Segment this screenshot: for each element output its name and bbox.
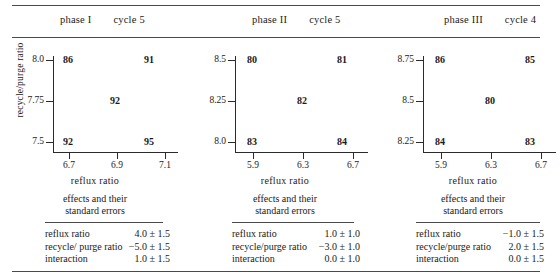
- data-value: 83: [247, 136, 257, 147]
- effect-value: 4.0 ± 1.5: [135, 228, 171, 241]
- y-axis-line: [235, 56, 236, 152]
- x-tick-label: 6.7: [63, 160, 75, 170]
- x-tick-mark: [117, 152, 118, 159]
- x-axis-line: [53, 152, 178, 153]
- effect-name: interaction: [232, 253, 275, 266]
- x-tick-label: 5.9: [247, 160, 259, 170]
- effects-row: recycle/purge ratio 2.0 ± 1.5: [416, 241, 544, 254]
- effect-value: −3.0 ± 1.0: [319, 241, 360, 254]
- effects-table-rule: [45, 222, 163, 223]
- effects-caption: effects and their standard errors: [378, 193, 560, 217]
- y-tick-mark: [416, 60, 424, 61]
- header-rule: [12, 37, 540, 38]
- x-tick-label: 5.9: [435, 160, 447, 170]
- effects-caption: effects and their standard errors: [0, 193, 190, 217]
- y-tick-mark: [228, 142, 236, 143]
- data-value: 92: [63, 136, 73, 147]
- x-tick-label: 6.9: [111, 160, 123, 170]
- panel-header-2: phase IIcycle 5: [252, 14, 341, 25]
- y-tick-mark: [228, 60, 236, 61]
- effect-value: −1.0 ± 1.5: [503, 228, 544, 241]
- panel-2-plot: 8.5 8.25 8.0 5.9 6.3 6.7 80 81 82 83 84: [190, 45, 380, 165]
- effect-name: reflux ratio: [416, 228, 461, 241]
- effects-caption-line-1: effects and their: [190, 193, 380, 205]
- x-tick-mark: [491, 152, 492, 159]
- effect-value: −5.0 ± 1.5: [129, 241, 170, 254]
- data-value: 80: [485, 95, 495, 106]
- effects-table-rule: [416, 222, 540, 223]
- effects-table: reflux ratio −1.0 ± 1.5 recycle/purge ra…: [416, 228, 544, 266]
- y-tick-label: 8.25: [397, 136, 414, 146]
- effect-value: 2.0 ± 1.5: [509, 241, 545, 254]
- y-tick-label: 8.5: [402, 95, 414, 105]
- panel-2-phase-label: phase II: [252, 14, 287, 25]
- x-tick-label: 7.1: [159, 160, 171, 170]
- effect-value: 0.0 ± 1.0: [325, 253, 361, 266]
- effects-table-rule: [232, 222, 354, 223]
- effects-row: recycle/purge ratio −3.0 ± 1.0: [232, 241, 360, 254]
- y-tick-label: 8.75: [397, 54, 414, 64]
- y-tick-mark: [228, 101, 236, 102]
- panel-1-cycle-label: cycle 5: [113, 14, 144, 25]
- data-value: 86: [63, 54, 73, 65]
- effect-name: interaction: [416, 253, 459, 266]
- panel-1-plot: recycle/purge ratio 8.0 7.75 7.5 6.7 6.9…: [0, 45, 190, 165]
- effects-caption: effects and their standard errors: [190, 193, 380, 217]
- effect-name: recycle/ purge ratio: [45, 241, 123, 254]
- panel-3: 8.75 8.5 8.25 5.9 6.3 6.7 86 85 80 84 83…: [378, 45, 560, 271]
- y-tick-mark: [46, 101, 54, 102]
- y-axis-line: [53, 56, 54, 152]
- panel-header-1: phase Icycle 5: [60, 14, 145, 25]
- y-tick-label: 7.5: [32, 136, 44, 146]
- data-value: 84: [435, 136, 445, 147]
- y-tick-label: 7.75: [27, 95, 44, 105]
- effects-table: reflux ratio 4.0 ± 1.5 recycle/ purge ra…: [45, 228, 170, 266]
- y-tick-label: 8.5: [214, 54, 226, 64]
- effect-name: reflux ratio: [232, 228, 277, 241]
- effects-row: recycle/ purge ratio −5.0 ± 1.5: [45, 241, 170, 254]
- effect-name: recycle/purge ratio: [232, 241, 307, 254]
- panel-1-phase-label: phase I: [60, 14, 91, 25]
- data-value: 80: [247, 54, 257, 65]
- effects-row: interaction 0.0 ± 1.0: [232, 253, 360, 266]
- effect-value: 1.0 ± 1.5: [135, 253, 171, 266]
- effects-caption-line-2: standard errors: [190, 205, 380, 217]
- x-axis-line: [423, 152, 556, 153]
- y-tick-label: 8.25: [209, 95, 226, 105]
- data-value: 85: [525, 54, 535, 65]
- bottom-rule: [12, 271, 540, 272]
- x-tick-mark: [303, 152, 304, 159]
- effect-value: 0.0 ± 1.5: [509, 253, 545, 266]
- top-rule: [12, 5, 540, 6]
- effects-row: reflux ratio 4.0 ± 1.5: [45, 228, 170, 241]
- x-tick-mark: [253, 152, 254, 159]
- effects-caption-line-2: standard errors: [0, 205, 190, 217]
- x-tick-mark: [541, 152, 542, 159]
- data-value: 86: [435, 54, 445, 65]
- panel-3-plot: 8.75 8.5 8.25 5.9 6.3 6.7 86 85 80 84 83: [378, 45, 560, 165]
- panel-3-phase-label: phase III: [444, 14, 483, 25]
- effects-table: reflux ratio 1.0 ± 1.0 recycle/purge rat…: [232, 228, 360, 266]
- x-tick-label: 6.3: [297, 160, 309, 170]
- data-value: 82: [297, 95, 307, 106]
- y-axis-line: [423, 56, 424, 152]
- effects-caption-line-2: standard errors: [378, 205, 560, 217]
- panel-1: recycle/purge ratio 8.0 7.75 7.5 6.7 6.9…: [0, 45, 190, 271]
- y-tick-mark: [46, 60, 54, 61]
- effects-caption-line-1: effects and their: [0, 193, 190, 205]
- effect-name: recycle/purge ratio: [416, 241, 491, 254]
- effects-row: reflux ratio 1.0 ± 1.0: [232, 228, 360, 241]
- x-axis-title: reflux ratio: [190, 175, 380, 186]
- effect-value: 1.0 ± 1.0: [325, 228, 361, 241]
- y-tick-mark: [416, 101, 424, 102]
- data-value: 81: [337, 54, 347, 65]
- x-tick-label: 6.3: [485, 160, 497, 170]
- x-tick-mark: [69, 152, 70, 159]
- effect-name: reflux ratio: [45, 228, 90, 241]
- x-tick-label: 6.7: [535, 160, 547, 170]
- x-axis-line: [235, 152, 368, 153]
- effect-name: interaction: [45, 253, 88, 266]
- x-axis-title: reflux ratio: [378, 175, 560, 186]
- effects-row: reflux ratio −1.0 ± 1.5: [416, 228, 544, 241]
- effects-row: interaction 0.0 ± 1.5: [416, 253, 544, 266]
